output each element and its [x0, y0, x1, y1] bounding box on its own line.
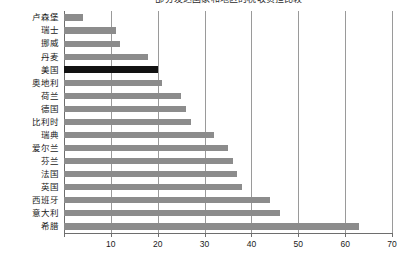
x-axis-tick — [392, 233, 393, 237]
bar — [64, 14, 83, 20]
bar — [64, 119, 191, 125]
x-axis-tick — [345, 233, 346, 237]
category-label: 挪威 — [41, 37, 59, 49]
bar — [64, 197, 270, 203]
bar — [64, 54, 148, 60]
x-axis-line — [64, 233, 393, 234]
category-label: 法国 — [41, 168, 59, 180]
bar — [64, 80, 162, 86]
category-label: 比利时 — [32, 116, 59, 128]
x-axis-tick — [64, 233, 65, 237]
x-axis-tick-label: 60 — [332, 239, 358, 250]
bar-chart: 部分发达国家和地区的税收负担比较 卢森堡瑞士挪威丹麦美国奥地利荷兰德国比利时瑞典… — [0, 0, 408, 257]
category-label: 希腊 — [41, 220, 59, 232]
category-label: 卢森堡 — [32, 11, 59, 23]
x-axis-tick — [158, 233, 159, 237]
x-axis-tick-label: 30 — [192, 239, 218, 250]
category-label: 爱尔兰 — [32, 142, 59, 154]
x-axis-tick — [205, 233, 206, 237]
category-label: 荷兰 — [41, 90, 59, 102]
category-label: 芬兰 — [41, 155, 59, 167]
bar — [64, 132, 214, 138]
bar — [64, 210, 280, 216]
x-axis-tick — [251, 233, 252, 237]
x-axis-tick-label: 50 — [285, 239, 311, 250]
category-label: 英国 — [41, 181, 59, 193]
gridline — [392, 11, 393, 233]
category-label: 瑞士 — [41, 24, 59, 36]
gridline — [345, 11, 346, 233]
category-label: 美国 — [41, 64, 59, 76]
category-axis-labels: 卢森堡瑞士挪威丹麦美国奥地利荷兰德国比利时瑞典爱尔兰芬兰法国英国西班牙意大利希腊 — [0, 11, 62, 233]
x-axis-tick-label: 40 — [238, 239, 264, 250]
bar — [64, 171, 237, 177]
category-label: 德国 — [41, 103, 59, 115]
x-axis-tick-label: 70 — [379, 239, 405, 250]
bar-highlighted — [64, 66, 158, 73]
bar — [64, 184, 242, 190]
bar — [64, 158, 233, 164]
category-label: 意大利 — [32, 207, 59, 219]
bar — [64, 145, 228, 151]
category-label: 丹麦 — [41, 51, 59, 63]
bar — [64, 41, 120, 47]
bar — [64, 223, 359, 229]
plot-area — [64, 11, 392, 233]
gridline — [298, 11, 299, 233]
x-axis-tick — [298, 233, 299, 237]
bar — [64, 106, 186, 112]
x-axis-tick-label: 20 — [145, 239, 171, 250]
category-label: 西班牙 — [32, 194, 59, 206]
category-label: 瑞典 — [41, 129, 59, 141]
x-axis-tick — [111, 233, 112, 237]
bar — [64, 93, 181, 99]
category-label: 奥地利 — [32, 77, 59, 89]
chart-title: 部分发达国家和地区的税收负担比较 — [64, 0, 394, 4]
bar — [64, 27, 116, 33]
x-axis-tick-label: 10 — [98, 239, 124, 250]
